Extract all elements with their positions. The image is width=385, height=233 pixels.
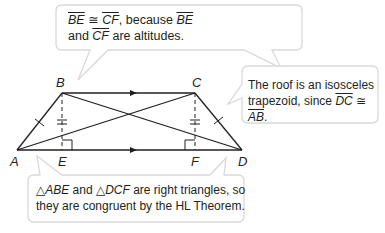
callout-right-text: The roof is an isosceles trapezoid, sinc… (248, 77, 378, 125)
label-d: D (238, 154, 247, 169)
segment-ab (17, 93, 62, 150)
segment-ab-label: AB (248, 110, 264, 124)
segment-cf: CF (102, 13, 119, 27)
segment-dc: DC (335, 94, 352, 108)
callout-bottom-text: △ABE and △DCF are right triangles, so th… (36, 182, 246, 214)
diagonal-ac (17, 93, 195, 150)
arrow-bc (130, 90, 137, 96)
callout-top-text: BE ≅ CF, because BE and CF are altitudes… (68, 12, 298, 44)
triangle-dcf: DCF (105, 183, 130, 197)
label-f: F (191, 154, 200, 169)
label-e: E (58, 154, 67, 169)
diagonal-bd (62, 93, 242, 150)
triangle-abe: ABE (45, 183, 69, 197)
right-angle-e (62, 140, 72, 150)
label-c: C (192, 75, 202, 90)
segment-be: BE (68, 13, 85, 27)
label-b: B (56, 75, 65, 90)
right-angle-f (185, 140, 195, 150)
label-a: A (9, 154, 19, 169)
parallel-arrows (130, 90, 137, 153)
arrow-ad (130, 147, 137, 153)
trapezoid-figure (17, 93, 242, 150)
